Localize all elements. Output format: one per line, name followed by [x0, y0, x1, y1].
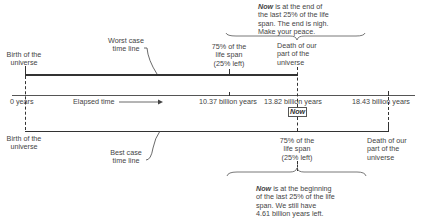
worst-75pct-label: 75% of the life span (25% left): [205, 43, 253, 68]
axis-label-18-43: 18.43 billion years: [352, 98, 410, 106]
note-line-4: Make your peace.: [258, 28, 329, 36]
birth-line-2: universe: [2, 143, 46, 151]
pct-line-3: (25% left): [273, 154, 321, 162]
axis-label-10-37: 10.37 billion years: [199, 98, 257, 106]
timeline-label-line-2: time line: [104, 45, 148, 53]
diagram-connectors: [0, 0, 427, 224]
death-line-3: universe: [277, 59, 317, 67]
axis-label-13-82: 13.82 billion years: [264, 98, 322, 106]
worst-case-note: Now is at the end of the last 25% of the…: [258, 3, 329, 37]
note-line-4: 4.61 billion years left.: [256, 210, 335, 218]
pct-line-3: (25% left): [205, 60, 253, 68]
best-death-label: Death of our part of the universe: [367, 137, 407, 162]
birth-line-2: universe: [2, 59, 46, 67]
worst-timeline-label: Worst case time line: [104, 37, 148, 54]
best-birth-label: Birth of the universe: [2, 135, 46, 152]
axis-label-0: 0 years: [10, 98, 34, 106]
best-75pct-label: 75% of the life span (25% left): [273, 137, 321, 162]
now-marker-box: Now: [288, 107, 307, 117]
best-case-note: Now is at the beginning of the last 25% …: [256, 185, 335, 219]
worst-death-label: Death of our part of the universe: [277, 42, 317, 67]
best-timeline-label: Best case time line: [106, 149, 146, 166]
death-line-3: universe: [367, 154, 407, 162]
timeline-label-line-2: time line: [106, 157, 146, 165]
elapsed-time-label: Elapsed time: [73, 98, 115, 106]
worst-birth-label: Birth of the universe: [2, 51, 46, 68]
